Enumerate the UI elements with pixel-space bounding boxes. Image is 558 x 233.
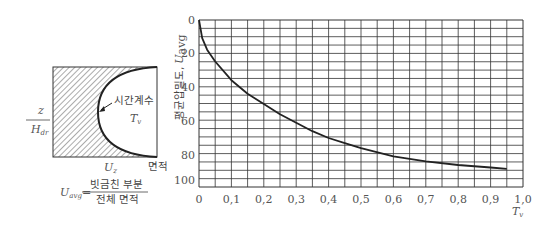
formula-lhs: Uavg= [60,186,91,200]
uz-label: Uz [104,161,117,175]
formula-denominator: 전체 면적 [96,193,139,205]
y-axis-label: 평균압밀도,Uavg [173,35,188,120]
z-label: z [37,104,44,117]
formula-numerator: 빗금친 부분 [90,178,143,190]
diagram-labels: z Hdr 시간계수 Tv Uz 면적 Uavg= 빗금친 부분 전체 면적 평… [0,0,558,233]
x-axis-label: Tv [512,205,523,219]
area-label: 면적 [148,160,168,172]
tv-label: Tv [130,112,141,126]
h-label: Hdr [30,123,49,137]
time-factor-label: 시간계수 [114,94,154,106]
